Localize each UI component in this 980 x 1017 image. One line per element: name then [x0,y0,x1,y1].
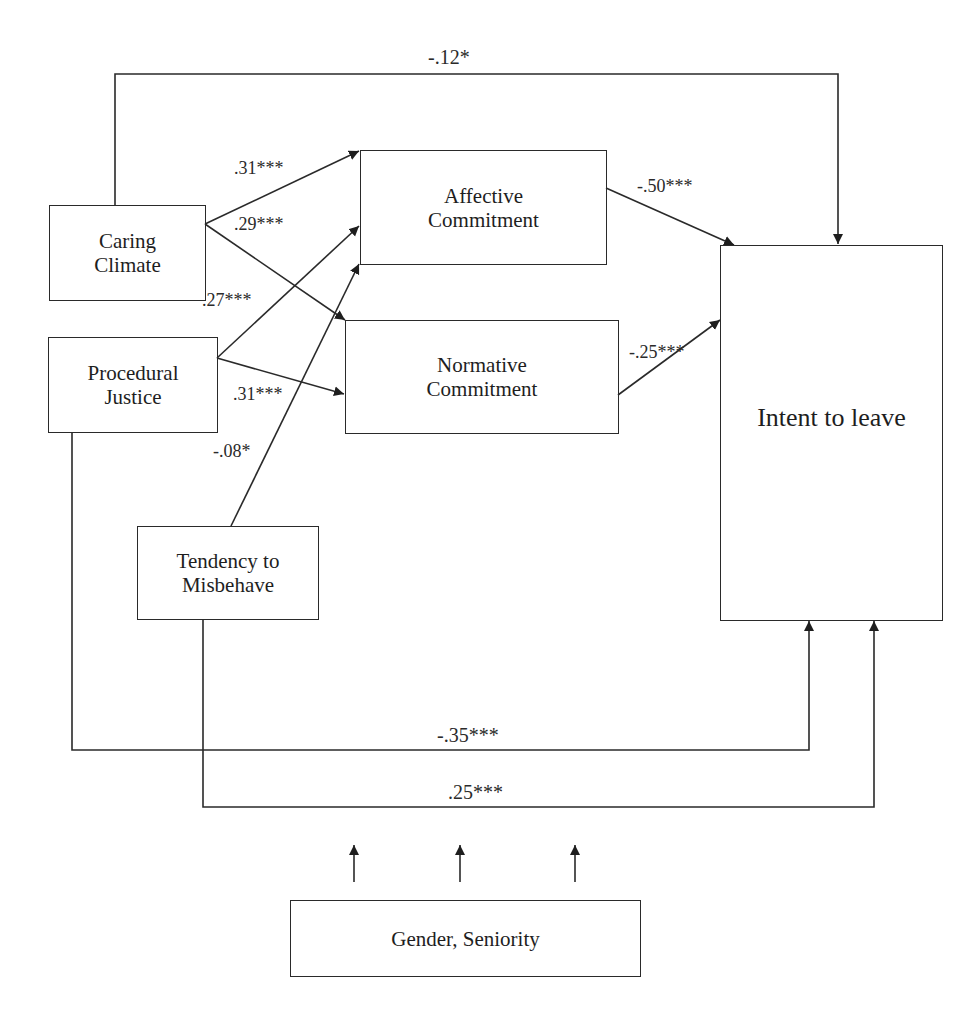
node-controls: Gender, Seniority [290,900,641,977]
node-caring-climate-line1: Caring [94,229,161,253]
node-normative-line1: Normative [427,353,538,377]
node-caring-climate: Caring Climate [49,205,206,301]
coef-affective-to-intent: -.50*** [637,176,693,197]
node-affective-commitment: Affective Commitment [360,150,607,265]
coef-misbehave-to-intent: .25*** [448,781,503,804]
node-intent-label: Intent to leave [757,406,906,430]
node-caring-climate-line2: Climate [94,253,161,277]
coef-procedural-to-affective: .27*** [202,290,252,311]
node-tendency-to-misbehave: Tendency to Misbehave [137,526,319,620]
coef-caring-to-intent: -.12* [428,46,470,69]
node-procedural-justice-line2: Justice [88,385,179,409]
node-intent-to-leave: Intent to leave [720,245,943,621]
node-normative-commitment: Normative Commitment [345,320,619,434]
coef-caring-to-normative: .29*** [234,214,284,235]
node-procedural-justice: Procedural Justice [48,337,218,433]
node-tendency-line2: Misbehave [177,573,280,597]
node-normative-line2: Commitment [427,377,538,401]
node-controls-label: Gender, Seniority [391,927,539,951]
edge-misbehave-to-intent [203,619,874,807]
node-tendency-line1: Tendency to [177,549,280,573]
coef-misbehave-to-affective: -.08* [213,441,251,462]
node-affective-line1: Affective [428,184,539,208]
coef-caring-to-affective: .31*** [234,158,284,179]
node-affective-line2: Commitment [428,208,539,232]
coef-normative-to-intent: -.25*** [629,342,685,363]
coef-procedural-to-normative: .31*** [233,384,283,405]
coef-procedural-to-intent: -.35*** [437,724,499,747]
node-procedural-justice-line1: Procedural [88,361,179,385]
